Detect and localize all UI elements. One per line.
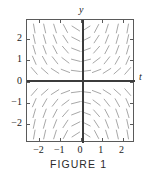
vertical-axis-label: y bbox=[79, 5, 83, 15]
figure-direction-field: −2−1012 −2−1012 y t FIGURE 1 bbox=[0, 0, 157, 178]
horizontal-axis-label: t bbox=[139, 72, 142, 82]
x-tick-label: 0 bbox=[72, 145, 88, 155]
x-tick-label: −1 bbox=[51, 145, 67, 155]
x-tick-label: −2 bbox=[30, 145, 46, 155]
vertical-axis-line bbox=[82, 20, 84, 143]
y-tick-label: 0 bbox=[6, 76, 22, 86]
plot-area bbox=[26, 19, 134, 142]
figure-caption: FIGURE 1 bbox=[0, 158, 157, 170]
y-tick-label: −1 bbox=[6, 97, 22, 107]
y-tick-label: 2 bbox=[6, 33, 22, 43]
y-tick-label: 1 bbox=[6, 54, 22, 64]
y-tick-label: −2 bbox=[6, 118, 22, 128]
horizontal-axis-line bbox=[27, 80, 135, 82]
x-tick-label: 1 bbox=[93, 145, 109, 155]
x-tick-label: 2 bbox=[114, 145, 130, 155]
